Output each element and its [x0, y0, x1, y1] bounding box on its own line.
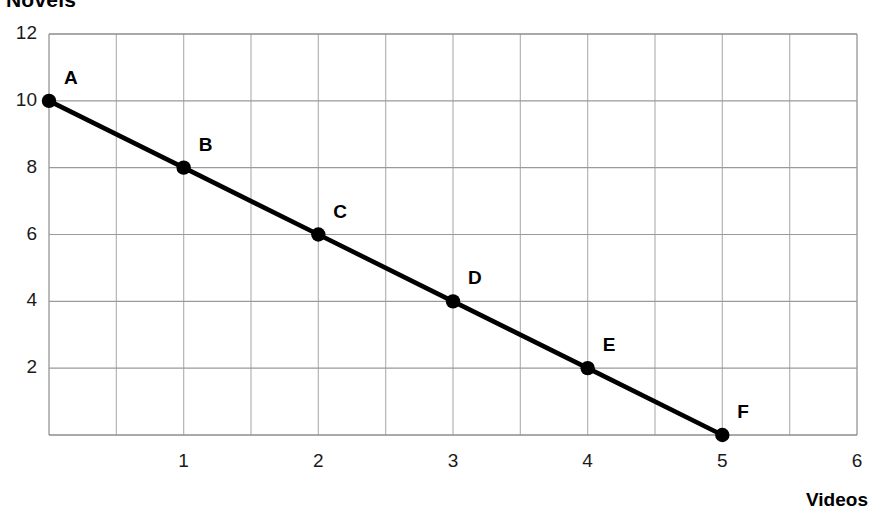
y-tick-label: 10 [3, 89, 37, 111]
x-tick-label: 1 [164, 450, 204, 472]
x-axis-title: Videos [806, 489, 868, 511]
y-tick-label: 2 [3, 356, 37, 378]
data-point-label-d: D [468, 267, 482, 289]
y-tick-label: 4 [3, 289, 37, 311]
data-point-label-b: B [199, 134, 213, 156]
x-tick-label: 3 [433, 450, 473, 472]
y-tick-label: 12 [3, 22, 37, 44]
x-tick-label: 5 [702, 450, 742, 472]
chart-container: Novels 24681012123456 ABCDEF Videos [0, 0, 894, 519]
data-point-label-e: E [603, 334, 616, 356]
data-point-label-c: C [333, 201, 347, 223]
data-point-label-a: A [64, 67, 78, 89]
x-tick-label: 6 [837, 450, 877, 472]
data-point-label-f: F [737, 401, 749, 423]
y-tick-label: 6 [3, 223, 37, 245]
x-tick-label: 4 [568, 450, 608, 472]
plot-area [0, 0, 894, 519]
x-tick-label: 2 [298, 450, 338, 472]
y-tick-label: 8 [3, 156, 37, 178]
